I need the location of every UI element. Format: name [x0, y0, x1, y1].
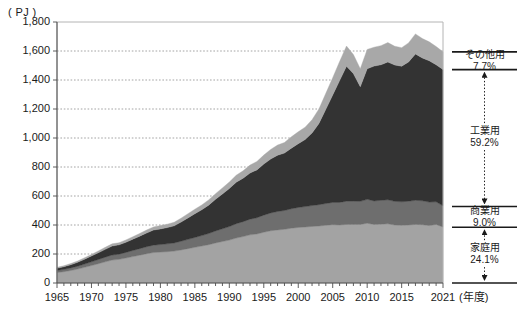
x-axis-ticks: 1965197019751980198519901995200020052010… — [45, 283, 455, 303]
x-tick-label: 1995 — [252, 291, 276, 303]
x-tick-label: 1985 — [183, 291, 207, 303]
legend-item-label: 家庭用 — [470, 241, 500, 253]
y-tick-label: 1,800 — [22, 15, 50, 27]
y-tick-label: 1,400 — [22, 73, 50, 85]
x-tick-label: 1990 — [217, 291, 241, 303]
x-tick-label: 1970 — [79, 291, 103, 303]
legend-item-percent: 24.1% — [470, 254, 498, 265]
y-tick-label: 0 — [44, 276, 50, 288]
y-tick-label: 1,200 — [22, 102, 50, 114]
area-series-group — [57, 34, 443, 283]
x-tick-label: 1965 — [45, 291, 69, 303]
x-axis-unit-label: (年度) — [459, 290, 488, 303]
legend-item-percent: 9.0% — [473, 217, 496, 228]
legend-item-label: 商業用 — [470, 204, 500, 216]
y-axis-ticks: 02004006008001,0001,2001,4001,6001,800 — [22, 15, 57, 288]
y-tick-label: 400 — [32, 218, 50, 230]
y-tick-label: 600 — [32, 189, 50, 201]
y-tick-label: 800 — [32, 160, 50, 172]
legend-item-percent: 59.2% — [470, 137, 498, 148]
y-tick-label: 1,000 — [22, 131, 50, 143]
y-tick-label: 1,600 — [22, 44, 50, 56]
x-tick-label: 2000 — [286, 291, 310, 303]
x-tick-label: 2005 — [320, 291, 344, 303]
x-tick-label: 1975 — [114, 291, 138, 303]
x-axis-unit: (年度) — [459, 290, 488, 303]
x-tick-label: 2015 — [389, 291, 413, 303]
y-tick-label: 200 — [32, 247, 50, 259]
x-tick-label: 2010 — [355, 291, 379, 303]
legend-item-label: その他用 — [465, 48, 505, 60]
legend-item-percent: 7.7% — [473, 61, 496, 72]
x-tick-label: 2021 — [431, 291, 455, 303]
chart-container: ( PJ ) 02004006008001,0001,2001,4001,600… — [0, 0, 524, 310]
legend-brackets: その他用7.7%工業用59.2%商業用9.0%家庭用24.1% — [452, 48, 517, 283]
legend-item-label: 工業用 — [470, 124, 500, 136]
x-tick-label: 1980 — [148, 291, 172, 303]
stacked-area-chart: 02004006008001,0001,2001,4001,6001,800 1… — [0, 0, 524, 310]
